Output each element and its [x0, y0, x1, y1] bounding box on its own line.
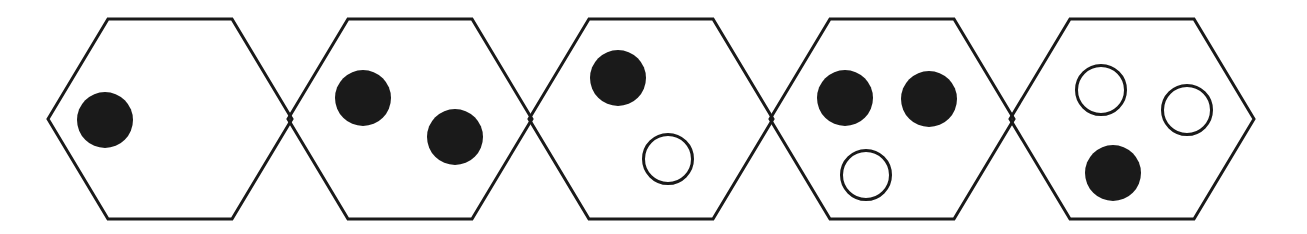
- hexagon-sequence-figure: [0, 0, 1307, 234]
- hexagon-2-dot-2-filled-circle-icon[interactable]: [427, 109, 483, 165]
- hexagon-4-dot-2-filled-circle-icon[interactable]: [901, 71, 957, 127]
- hexagon-1-dot-1-filled-circle-icon[interactable]: [77, 92, 133, 148]
- hexagon-1[interactable]: [48, 19, 292, 219]
- hexagon-3-outline: [529, 19, 773, 219]
- hexagon-2[interactable]: [288, 19, 532, 219]
- hexagon-3[interactable]: [529, 19, 773, 219]
- hexagon-2-dot-1-filled-circle-icon[interactable]: [335, 70, 391, 126]
- hexagon-5-dot-3-filled-circle-icon[interactable]: [1085, 145, 1141, 201]
- hexagon-4[interactable]: [770, 19, 1014, 219]
- hexagon-5[interactable]: [1010, 19, 1254, 219]
- hexagon-4-dot-1-filled-circle-icon[interactable]: [817, 70, 873, 126]
- hexagon-4-outline: [770, 19, 1014, 219]
- hexagon-3-dot-1-filled-circle-icon[interactable]: [590, 50, 646, 106]
- hexagon-sequence-canvas: [0, 0, 1307, 234]
- hexagon-2-outline: [288, 19, 532, 219]
